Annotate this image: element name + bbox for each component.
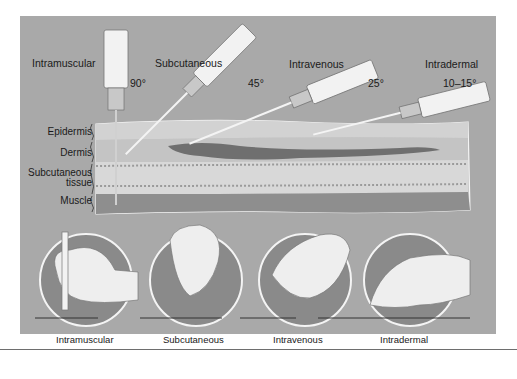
label-muscle: Muscle xyxy=(60,195,92,206)
angle-subcutaneous: 45° xyxy=(248,77,264,89)
skin-cross-section xyxy=(96,120,470,214)
label-intravenous-bottom: Intravenous xyxy=(273,334,323,345)
label-subcutaneous-tissue-2: tissue xyxy=(66,177,92,188)
angle-intradermal: 10–15° xyxy=(443,77,476,89)
label-intradermal-bottom: Intradermal xyxy=(380,334,428,345)
skin-layer-labels: Epidermis Dermis Subcutaneous tissue Mus… xyxy=(0,0,92,220)
muscle-layer xyxy=(96,192,470,214)
label-subcutaneous-bottom: Subcutaneous xyxy=(163,334,224,345)
label-intramuscular-bottom: Intramuscular xyxy=(56,334,114,345)
label-intravenous-top: Intravenous xyxy=(289,58,344,70)
divider-line xyxy=(0,349,517,350)
label-subcutaneous-top: Subcutaneous xyxy=(155,57,222,69)
angle-intravenous: 25° xyxy=(368,77,384,89)
syringe-small-intramuscular xyxy=(62,232,68,310)
angle-intramuscular: 90° xyxy=(130,77,146,89)
label-epidermis: Epidermis xyxy=(48,126,92,137)
label-dermis: Dermis xyxy=(60,147,92,158)
label-intradermal-top: Intradermal xyxy=(425,58,478,70)
